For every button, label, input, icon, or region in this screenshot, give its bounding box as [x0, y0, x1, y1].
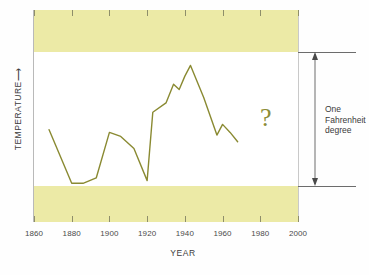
temperature-series-line [34, 10, 298, 222]
x-tick-label-1920: 1920 [127, 229, 167, 238]
x-tick-label-1900: 1900 [89, 229, 129, 238]
y-axis-title: TEMPERATURE⟶ [13, 49, 23, 169]
scale-top-rule [298, 52, 356, 53]
scale-line-3: degree [325, 125, 369, 136]
x-tick-label-1860: 1860 [14, 229, 54, 238]
scale-double-arrow-icon [310, 52, 320, 186]
x-tick-label-1940: 1940 [165, 229, 205, 238]
y-axis-title-text: TEMPERATURE [13, 81, 23, 150]
plot-right-edge [298, 10, 299, 222]
x-tick-label-1980: 1980 [240, 229, 280, 238]
question-mark-annotation: ? [260, 105, 272, 131]
scale-line-1: One [325, 104, 369, 115]
x-tick-2000 [298, 216, 299, 222]
x-tick-label-2000: 2000 [278, 229, 318, 238]
x-tick-2000 [298, 10, 299, 16]
x-axis-title: YEAR [0, 248, 366, 258]
x-tick-label-1960: 1960 [203, 229, 243, 238]
scale-bottom-rule [298, 186, 356, 187]
scale-line-2: Fahrenheit [325, 115, 369, 126]
scale-annotation-text: One Fahrenheit degree [325, 104, 369, 136]
x-tick-label-1880: 1880 [52, 229, 92, 238]
y-axis-arrow-icon: ⟶ [13, 68, 23, 82]
